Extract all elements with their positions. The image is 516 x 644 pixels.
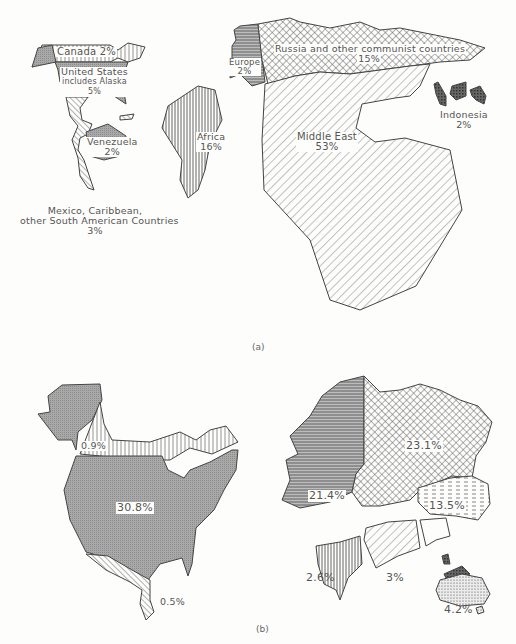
- label-a-us-line2: includes Alaska: [61, 77, 128, 87]
- region-b-middle-east: [364, 520, 420, 568]
- region-b-us: [64, 450, 238, 580]
- label-a-mexico: Mexico, Caribbean, other South American …: [20, 206, 170, 236]
- label-a-mexico-line3: 3%: [20, 226, 170, 236]
- region-b-australia: [436, 574, 490, 606]
- region-a-middle-east: [262, 64, 462, 310]
- label-a-indonesia: Indonesia 2%: [440, 110, 488, 130]
- label-b-middle-east: 3%: [386, 572, 404, 584]
- caption-b: (b): [256, 624, 269, 634]
- label-a-venezuela: Venezuela 2%: [86, 137, 139, 157]
- label-b-us: 30.8%: [116, 502, 154, 514]
- label-b-australia: 4.2%: [444, 604, 473, 616]
- label-a-us-line3: 5%: [61, 87, 128, 97]
- label-a-africa-line2: 16%: [197, 142, 225, 152]
- label-a-indonesia-line2: 2%: [440, 120, 488, 130]
- region-b-africa: [316, 536, 362, 600]
- label-b-mexico: 0.5%: [160, 597, 185, 607]
- label-a-venezuela-line2: 2%: [87, 147, 138, 157]
- label-a-europe: Europe 2%: [228, 58, 261, 76]
- label-a-europe-line2: 2%: [229, 67, 260, 76]
- label-a-middle-east: Middle East 53%: [296, 132, 358, 152]
- label-a-russia: Russia and other communist countries 15%: [274, 44, 464, 64]
- label-a-us-line1: United States: [61, 67, 128, 77]
- label-a-middle-east-line2: 53%: [297, 142, 357, 152]
- label-a-us: United States includes Alaska 5%: [60, 67, 129, 97]
- label-b-europe: 21.4%: [308, 490, 346, 502]
- label-a-russia-line2: 15%: [357, 54, 381, 64]
- region-a-indonesia: [434, 82, 446, 106]
- label-a-africa: Africa 16%: [196, 132, 226, 152]
- label-b-russia: 23.1%: [405, 440, 443, 452]
- label-b-canada: 0.9%: [80, 441, 107, 451]
- label-b-east-asia: 13.5%: [428, 500, 466, 512]
- region-b-canada: [80, 402, 238, 460]
- label-b-africa: 2.6%: [306, 572, 335, 584]
- caption-a: (a): [252, 342, 265, 352]
- label-a-canada: Canada 2%: [56, 47, 117, 57]
- panel-b: [38, 376, 492, 620]
